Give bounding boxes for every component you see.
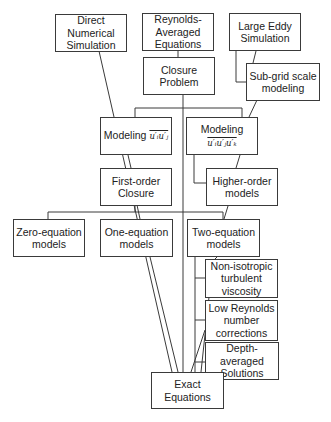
node-non-isotropic-turbulent-viscosity: Non-isotropic turbulent viscosity: [205, 259, 278, 298]
node-sub-grid-scale-modeling: Sub-grid scale modeling: [246, 63, 320, 101]
label-line: Exact Equations: [164, 378, 211, 403]
label-line: Problem: [159, 76, 198, 88]
label-line: Depth-averaged: [220, 342, 264, 367]
node-one-equation-models: One-equation models: [100, 219, 173, 257]
label-line: Non-isotropic: [211, 260, 273, 272]
label-text: Modeling: [201, 123, 244, 135]
label-line: modeling: [262, 82, 305, 94]
node-reynolds-averaged-equations: Reynolds- Averaged Equations: [142, 13, 214, 51]
node-two-equation-models: Two-equation models: [187, 219, 260, 257]
label-line: Higher-order: [213, 175, 272, 187]
node-modeling-second-moment: Modeling u′ᵢu′ⱼ: [100, 117, 172, 155]
label-line: Zero-equation: [16, 226, 81, 238]
node-closure-problem: Closure Problem: [143, 57, 215, 95]
reynolds-stress-symbol: u′ᵢu′ⱼ: [149, 131, 168, 141]
label-line: Averaged: [156, 26, 201, 38]
label-text: Modeling: [104, 129, 147, 141]
node-exact-equations: Exact Equations: [151, 372, 224, 409]
node-direct-numerical-simulation: Direct Numerical Simulation: [55, 14, 127, 52]
label-line: Solutions: [220, 367, 263, 379]
label-line: Reynolds-: [154, 13, 201, 25]
label-line: Numerical: [67, 27, 114, 39]
node-zero-equation-models: Zero-equation models: [13, 219, 85, 257]
label-line: One-equation: [105, 226, 169, 238]
label-line: models: [225, 187, 259, 199]
label-line: Simulation: [240, 32, 289, 44]
node-large-eddy-simulation: Large Eddy Simulation: [229, 13, 301, 51]
diagram-canvas: Direct Numerical Simulation Reynolds- Av…: [0, 0, 331, 422]
node-higher-order-models: Higher-order models: [206, 168, 278, 206]
label-line: number: [224, 314, 260, 326]
label-line: Large Eddy: [238, 20, 292, 32]
label-line: viscosity: [222, 285, 262, 297]
label-line: models: [32, 238, 66, 250]
label-line: Sub-grid scale: [249, 70, 316, 82]
label-line: Two-equation: [192, 226, 255, 238]
label-line: Simulation: [66, 39, 115, 51]
label-line: Low Reynolds: [209, 302, 275, 314]
label-line: Equations: [155, 38, 202, 50]
node-first-order-closure: First-order Closure: [100, 168, 172, 206]
label-line: models: [120, 238, 154, 250]
label-line: turbulent: [221, 272, 262, 284]
label-line: Direct: [77, 14, 104, 26]
label-line: models: [207, 238, 241, 250]
triple-correlation-symbol: u′ᵢu′ⱼu′ₖ: [207, 138, 236, 148]
node-modeling-third-moment: Modeling u′ᵢu′ⱼu′ₖ: [186, 117, 258, 155]
label-line: First-order: [112, 175, 160, 187]
label-line: Closure: [118, 187, 154, 199]
node-low-reynolds-number-corrections: Low Reynolds number corrections: [205, 300, 278, 341]
label-line: Closure: [161, 64, 197, 76]
label-line: corrections: [216, 327, 267, 339]
